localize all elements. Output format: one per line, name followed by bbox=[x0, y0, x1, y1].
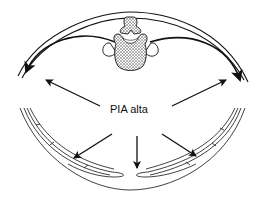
left-curved-arrow bbox=[26, 36, 115, 72]
vertebra bbox=[103, 17, 158, 71]
arrow-upper-left bbox=[46, 80, 100, 106]
arrow-lower-left bbox=[74, 134, 112, 158]
pressure-label: PIA alta bbox=[110, 103, 148, 115]
arrow-upper-right bbox=[172, 80, 226, 106]
abdominal-cross-section-diagram bbox=[0, 0, 260, 204]
right-curved-arrow bbox=[150, 38, 240, 80]
lower-abdominal-wall bbox=[20, 108, 245, 190]
arrow-lower-right bbox=[162, 134, 196, 156]
